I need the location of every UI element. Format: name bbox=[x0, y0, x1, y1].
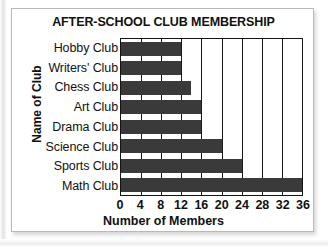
x-axis-tick-label: 16 bbox=[194, 198, 208, 212]
x-axis-tick-label: 4 bbox=[137, 198, 144, 212]
bar-row bbox=[121, 59, 302, 79]
bar bbox=[121, 178, 302, 192]
bar-row bbox=[121, 98, 302, 118]
y-axis-category-label: Chess Club bbox=[26, 78, 120, 98]
x-axis-tick-label: 8 bbox=[157, 198, 164, 212]
bar bbox=[121, 61, 181, 75]
bar bbox=[121, 120, 201, 134]
plot-area bbox=[120, 38, 303, 196]
bar-row bbox=[121, 137, 302, 157]
y-axis-category-label: Art Club bbox=[26, 97, 120, 117]
y-axis-category-label: Math Club bbox=[26, 176, 120, 196]
bar bbox=[121, 42, 181, 56]
bar-row bbox=[121, 156, 302, 176]
y-axis-category-label: Sports Club bbox=[26, 157, 120, 177]
scanned-page: AFTER-SCHOOL CLUB MEMBERSHIP Name of Clu… bbox=[0, 0, 328, 247]
page-edge-shadow-bottom bbox=[0, 239, 328, 247]
bar-row bbox=[121, 78, 302, 98]
y-axis-category-labels: Hobby ClubWriters' ClubChess ClubArt Clu… bbox=[26, 38, 120, 196]
bar-series bbox=[121, 39, 302, 195]
bar bbox=[121, 81, 191, 95]
bar-row bbox=[121, 39, 302, 59]
bar-row bbox=[121, 176, 302, 196]
bar-row bbox=[121, 117, 302, 137]
x-axis-tick-label: 32 bbox=[276, 198, 290, 212]
x-axis-tick-label: 20 bbox=[215, 198, 229, 212]
x-axis-title: Number of Members bbox=[12, 214, 315, 228]
bar bbox=[121, 159, 242, 173]
y-axis-category-label: Drama Club bbox=[26, 117, 120, 137]
x-axis-tick-label: 36 bbox=[296, 198, 310, 212]
y-axis-category-label: Writers' Club bbox=[26, 58, 120, 78]
x-axis-tick-label: 12 bbox=[174, 198, 188, 212]
y-axis-category-label: Science Club bbox=[26, 137, 120, 157]
x-axis-tick-labels: 04812162024283236 bbox=[120, 198, 303, 214]
page-edge-shadow-left bbox=[0, 0, 7, 247]
bar bbox=[121, 100, 201, 114]
y-axis-category-label: Hobby Club bbox=[26, 38, 120, 58]
x-axis-tick-label: 24 bbox=[235, 198, 249, 212]
x-axis-tick-label: 28 bbox=[255, 198, 269, 212]
x-axis-tick-label: 0 bbox=[117, 198, 124, 212]
bar bbox=[121, 139, 222, 153]
chart-title: AFTER-SCHOOL CLUB MEMBERSHIP bbox=[12, 15, 315, 29]
chart-card: AFTER-SCHOOL CLUB MEMBERSHIP Name of Clu… bbox=[11, 8, 314, 232]
